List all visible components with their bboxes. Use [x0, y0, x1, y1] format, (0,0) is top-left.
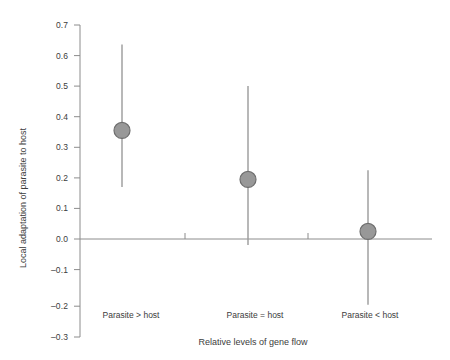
y-tick-label-8: –0.1	[34, 265, 68, 275]
data-marker-3	[360, 223, 376, 239]
x-tick-label-parasite-equal: Parasite = host	[227, 310, 284, 320]
data-point-group-1	[114, 45, 130, 187]
y-tick-label-5: 0.2	[38, 173, 68, 183]
x-axis-ticks	[185, 233, 308, 239]
y-tick-label-0: 0.7	[38, 20, 68, 30]
y-tick-label-2: 0.5	[38, 81, 68, 91]
y-tick-label-9: –0.2	[34, 301, 68, 311]
y-axis-title: Local adaptation of parasite to host	[18, 128, 28, 268]
x-tick-label-parasite-greater: Parasite > host	[103, 310, 160, 320]
y-tick-label-4: 0.3	[38, 142, 68, 152]
y-tick-label-1: 0.6	[38, 51, 68, 61]
y-tick-label-10: –0.3	[34, 332, 68, 342]
y-axis-ticks	[74, 25, 80, 337]
y-tick-label-6: 0.1	[38, 203, 68, 213]
data-marker-2	[240, 171, 256, 187]
data-point-group-2	[240, 86, 256, 245]
y-tick-label-7: 0.0	[38, 234, 68, 244]
y-tick-label-3: 0.4	[38, 112, 68, 122]
x-tick-label-parasite-less: Parasite < host	[342, 310, 399, 320]
data-marker-1	[114, 122, 130, 138]
data-point-group-3	[360, 170, 376, 305]
chart-container: 0.7 0.6 0.5 0.4 0.3 0.2 0.1 0.0 –0.1 –0.…	[0, 0, 450, 360]
x-axis-title: Relative levels of gene flow	[198, 337, 307, 347]
